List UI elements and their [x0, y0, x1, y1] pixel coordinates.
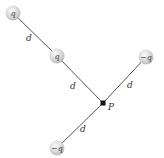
- charge-label: q: [10, 9, 15, 18]
- distance-label-2: d: [70, 81, 76, 91]
- segment-topleft-to-middle: [13, 13, 57, 56]
- charge-right: −q: [139, 50, 154, 65]
- distance-label-1: d: [26, 33, 32, 43]
- charge-label: −q: [140, 53, 152, 62]
- charge-label: −q: [51, 144, 63, 153]
- distance-label-4: d: [80, 124, 86, 134]
- segment-p-to-right: [103, 57, 146, 103]
- charge-bottom: −q: [50, 141, 65, 156]
- charge-top-left: q: [6, 6, 21, 21]
- charge-middle: q: [50, 49, 65, 64]
- charge-configuration-diagram: d d d d q q −q −q P: [0, 0, 164, 158]
- point-p-marker-icon: [101, 101, 106, 106]
- segment-middle-to-p: [57, 56, 103, 103]
- point-p-label: P: [107, 102, 115, 112]
- charge-label: q: [54, 52, 59, 61]
- distance-label-3: d: [127, 80, 133, 90]
